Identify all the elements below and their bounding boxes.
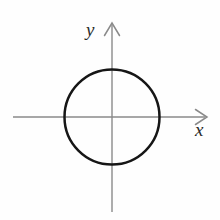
coordinate-plane-diagram <box>0 0 220 220</box>
x-axis-label: x <box>195 120 203 139</box>
y-axis-label: y <box>86 20 94 39</box>
figure-canvas: y x <box>0 0 220 220</box>
